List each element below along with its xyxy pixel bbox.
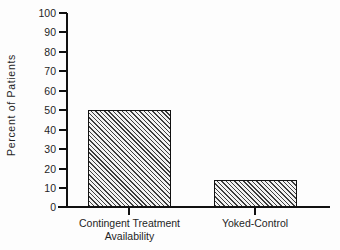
y-tick-70 xyxy=(59,70,67,72)
y-tick-label-30: 30 xyxy=(30,144,56,154)
y-tick-label-90: 90 xyxy=(30,27,56,37)
y-tick-label-20: 20 xyxy=(30,164,56,174)
bar-chart-figure: Percent of Patients 100 90 80 70 60 xyxy=(0,0,340,250)
y-tick-60 xyxy=(59,90,67,92)
x-axis-label-0-line1: Contingent Treatment xyxy=(79,217,180,229)
y-tick-label-10: 10 xyxy=(30,183,56,193)
y-tick-20 xyxy=(59,168,67,170)
y-tick-80 xyxy=(59,51,67,53)
y-tick-label-80: 80 xyxy=(30,47,56,57)
plot-area: 100 90 80 70 60 50 40 30 20 10 0 xyxy=(0,0,340,250)
y-tick-label-60: 60 xyxy=(30,86,56,96)
y-tick-0 xyxy=(59,206,67,208)
y-tick-10 xyxy=(59,187,67,189)
bar-contingent-treatment-availability xyxy=(88,110,171,207)
x-axis-label-1-line1: Yoked-Control xyxy=(222,217,288,229)
y-tick-90 xyxy=(59,31,67,33)
y-tick-label-50: 50 xyxy=(30,105,56,115)
x-axis-label-0: Contingent Treatment Availability xyxy=(53,217,206,242)
y-tick-100 xyxy=(59,12,67,14)
x-axis-label-0-line2: Availability xyxy=(53,230,206,243)
y-tick-label-70: 70 xyxy=(30,66,56,76)
y-tick-50 xyxy=(59,109,67,111)
y-tick-label-100: 100 xyxy=(30,8,56,18)
x-axis-label-1: Yoked-Control xyxy=(199,217,311,230)
x-tick-0 xyxy=(128,208,130,215)
y-tick-40 xyxy=(59,129,67,131)
bar-yoked-control xyxy=(214,180,297,207)
y-tick-label-40: 40 xyxy=(30,125,56,135)
x-tick-1 xyxy=(254,208,256,215)
y-tick-label-0: 0 xyxy=(30,202,56,212)
y-tick-30 xyxy=(59,148,67,150)
